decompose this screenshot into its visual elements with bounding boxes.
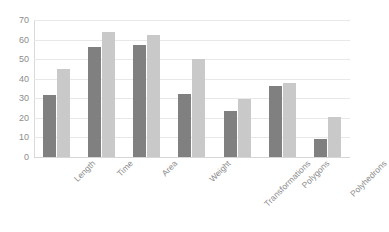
plot-area bbox=[34, 20, 350, 157]
bar[interactable] bbox=[269, 86, 282, 157]
y-tick-label: 20 bbox=[19, 113, 29, 122]
y-tick-label: 0 bbox=[24, 153, 29, 162]
bar-group bbox=[260, 20, 305, 157]
bar[interactable] bbox=[102, 32, 115, 157]
bar-group bbox=[124, 20, 169, 157]
bar[interactable] bbox=[192, 59, 205, 157]
bar-group bbox=[34, 20, 79, 157]
bar[interactable] bbox=[224, 111, 237, 157]
bar-group bbox=[169, 20, 214, 157]
bar-group bbox=[79, 20, 124, 157]
y-tick-label: 30 bbox=[19, 94, 29, 103]
x-tick-label: Length bbox=[72, 159, 97, 184]
bar-group bbox=[215, 20, 260, 157]
x-tick-label: Weight bbox=[208, 159, 233, 184]
bar[interactable] bbox=[283, 83, 296, 157]
y-tick-label: 60 bbox=[19, 35, 29, 44]
bar[interactable] bbox=[147, 35, 160, 157]
bar-group bbox=[305, 20, 350, 157]
y-tick-label: 50 bbox=[19, 55, 29, 64]
bar[interactable] bbox=[238, 99, 251, 157]
y-tick-label: 40 bbox=[19, 74, 29, 83]
y-axis-labels: 010203040506070 bbox=[0, 20, 29, 157]
x-tick-label: Polyhedrons bbox=[349, 159, 389, 199]
bar[interactable] bbox=[178, 94, 191, 157]
bar[interactable] bbox=[57, 69, 70, 157]
x-tick-label: Time bbox=[115, 159, 135, 179]
bar[interactable] bbox=[328, 117, 341, 157]
x-tick-label: Area bbox=[160, 159, 179, 178]
gridline bbox=[34, 157, 350, 158]
y-tick-label: 70 bbox=[19, 16, 29, 25]
x-axis-labels: LengthTimeAreaWeightTransformationsPolyg… bbox=[34, 159, 350, 231]
y-tick-label: 10 bbox=[19, 133, 29, 142]
bar[interactable] bbox=[88, 47, 101, 157]
bar[interactable] bbox=[314, 139, 327, 157]
bar[interactable] bbox=[43, 95, 56, 157]
bar[interactable] bbox=[133, 45, 146, 157]
